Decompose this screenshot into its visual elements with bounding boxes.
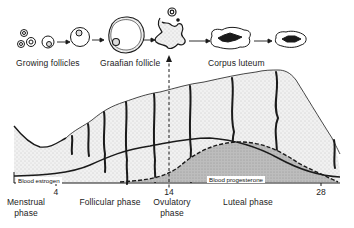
label-blood-estrogen: Blood estrogen — [16, 177, 62, 184]
arrow-icon — [143, 38, 155, 42]
arrow-icon — [92, 38, 104, 42]
label-luteal-phase: Luteal phase — [223, 197, 273, 207]
ruptured-follicle-icon — [155, 8, 185, 49]
corpus-luteum-icon — [211, 27, 251, 49]
label-growing-follicles: Growing follicles — [16, 58, 80, 68]
graafian-follicle-icon — [109, 17, 144, 53]
regressing-corpus-luteum-icon — [275, 31, 306, 47]
tick-label-28: 28 — [316, 187, 326, 197]
menstrual-cycle-diagram: Growing follicles Graafian follicle Corp… — [0, 0, 354, 228]
tick-label-14: 14 — [164, 187, 174, 197]
growing-follicles-icon — [18, 30, 55, 49]
label-ovulatory-phase-1: Ovulatory — [153, 197, 190, 207]
label-graafian-follicle: Graafian follicle — [100, 58, 160, 68]
arrow-icon — [57, 40, 70, 44]
label-follicular-phase: Follicular phase — [79, 197, 140, 207]
arrow-icon — [189, 39, 210, 43]
label-menstrual-phase-2: phase — [14, 208, 38, 218]
label-blood-progesterone: Blood progesterone — [207, 176, 265, 183]
developing-follicle-icon — [71, 28, 90, 47]
label-ovulatory-phase-2: phase — [160, 208, 184, 218]
label-corpus-luteum: Corpus luteum — [208, 58, 265, 68]
arrow-icon — [254, 39, 272, 43]
label-menstrual-phase-1: Menstrual — [7, 197, 45, 207]
tick-label-4: 4 — [54, 187, 59, 197]
